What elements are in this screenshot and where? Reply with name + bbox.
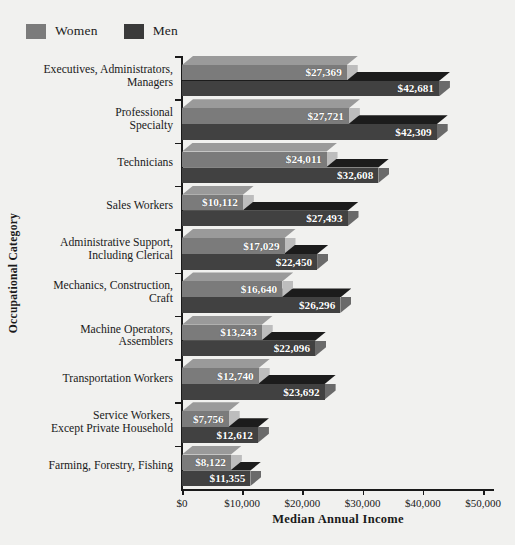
- x-axis-tick: [242, 489, 244, 495]
- bar-value-label: $7,756: [193, 413, 224, 425]
- bar-value-label: $8,122: [195, 456, 226, 468]
- bar-top-face: [182, 143, 338, 152]
- bar-women: $24,011: [182, 152, 327, 168]
- y-axis-tick-label: ProfessionalSpecialty: [115, 107, 173, 133]
- y-axis-tick-label: Executives, Administrators,Managers: [43, 64, 173, 90]
- bar-end-cap: [315, 341, 326, 357]
- bar-end-cap: [325, 384, 336, 400]
- y-axis-tick-label: Sales Workers: [106, 200, 173, 213]
- x-axis-tick-label: $50,000: [465, 497, 501, 509]
- bar-value-label: $17,029: [243, 240, 279, 252]
- bar-top-face: [182, 402, 240, 411]
- bar-chart: Women Men Occupational Category $0$10,00…: [0, 0, 515, 545]
- y-axis-tick: [175, 99, 182, 101]
- y-axis-tick: [175, 143, 182, 145]
- y-axis-title: Occupational Category: [2, 0, 24, 545]
- y-axis-tick-label-line: Assemblers: [80, 336, 173, 349]
- y-axis-tick: [175, 186, 182, 188]
- bar-men: $27,493: [182, 211, 348, 227]
- x-axis-tick-label: $30,000: [345, 497, 381, 509]
- bar-value-label: $12,740: [217, 370, 253, 382]
- bar-value-label: $22,450: [276, 256, 312, 268]
- bar-women: $13,243: [182, 325, 262, 341]
- y-axis-tick-label-line: Managers: [43, 77, 173, 90]
- x-axis-tick: [302, 489, 304, 495]
- bar-value-label: $22,096: [274, 342, 310, 354]
- bar-end-cap: [439, 81, 450, 97]
- y-axis-tick-label-line: Transportation Workers: [63, 373, 173, 386]
- x-axis-tick: [423, 489, 425, 495]
- bar-value-label: $27,721: [308, 110, 344, 122]
- x-axis-tick: [182, 489, 184, 495]
- bar-women: $27,721: [182, 108, 349, 124]
- bar-women: $7,756: [182, 411, 229, 427]
- x-axis-tick-label: $0: [177, 497, 188, 509]
- x-axis-tick-label: $40,000: [405, 497, 441, 509]
- bar-men: $22,096: [182, 341, 315, 357]
- y-axis-tick-label: Service Workers,Except Private Household: [51, 410, 173, 436]
- bar-top-face: [182, 229, 296, 238]
- bar-men: $32,608: [182, 168, 378, 184]
- chart-legend: Women Men: [26, 20, 204, 42]
- bar-top-face: [182, 359, 270, 368]
- bar-end-cap: [250, 471, 261, 487]
- x-axis-tick-label: $10,000: [224, 497, 260, 509]
- bar-women: $8,122: [182, 455, 231, 471]
- bar-women: $12,740: [182, 368, 259, 384]
- bar-top-face: [182, 316, 273, 325]
- bar-value-label: $42,681: [398, 82, 434, 94]
- y-axis-tick-label-line: Sales Workers: [106, 200, 173, 213]
- bar-end-cap: [258, 427, 269, 443]
- bar-value-label: $11,355: [210, 472, 246, 484]
- bar-men: $42,309: [182, 124, 437, 140]
- y-axis-tick: [175, 446, 182, 448]
- bar-value-label: $27,493: [306, 212, 342, 224]
- y-axis-tick-label: Farming, Forestry, Fishing: [48, 460, 173, 473]
- legend-item-women: Women: [26, 23, 98, 39]
- bar-women: $27,369: [182, 65, 347, 81]
- bar-value-label: $16,640: [241, 283, 277, 295]
- y-axis-tick-label: Machine Operators,Assemblers: [80, 324, 173, 350]
- legend-label-women: Women: [55, 23, 98, 39]
- bar-men: $23,692: [182, 384, 325, 400]
- bar-women: $17,029: [182, 238, 285, 254]
- y-axis-tick-label: Mechanics, Construction,Craft: [53, 280, 173, 306]
- x-axis-title: Median Annual Income: [182, 512, 494, 527]
- bar-value-label: $13,243: [220, 326, 256, 338]
- bar-value-label: $12,612: [217, 429, 253, 441]
- legend-swatch-men: [124, 24, 144, 39]
- bar-value-label: $32,608: [337, 169, 373, 181]
- bar-men: $22,450: [182, 254, 317, 270]
- bar-men: $26,296: [182, 297, 340, 313]
- y-axis-tick: [175, 229, 182, 231]
- bar-men: $11,355: [182, 471, 250, 487]
- x-axis-tick: [483, 489, 485, 495]
- x-axis-tick-label: $20,000: [285, 497, 321, 509]
- y-axis-tick-label: Administrative Support,Including Clerica…: [60, 237, 173, 263]
- y-axis-tick: [175, 316, 182, 318]
- bar-top-face: [182, 99, 360, 108]
- bar-men: $42,681: [182, 81, 439, 97]
- bar-women: $10,112: [182, 195, 243, 211]
- legend-label-men: Men: [153, 23, 178, 39]
- y-axis-tick-label-line: Craft: [53, 293, 173, 306]
- bar-end-cap: [437, 124, 448, 140]
- bar-end-cap: [348, 211, 359, 227]
- legend-item-men: Men: [124, 23, 178, 39]
- y-axis-tick-label-line: Farming, Forestry, Fishing: [48, 460, 173, 473]
- bar-value-label: $10,112: [202, 196, 238, 208]
- y-axis-tick-label-line: Technicians: [117, 157, 173, 170]
- bar-women: $16,640: [182, 281, 282, 297]
- y-axis-tick: [175, 402, 182, 404]
- bar-top-face: [182, 446, 242, 455]
- bar-value-label: $27,369: [305, 66, 341, 78]
- bar-end-cap: [317, 254, 328, 270]
- x-axis-tick: [363, 489, 365, 495]
- bar-end-cap: [340, 297, 351, 313]
- y-axis-tick-label-line: Including Clerical: [60, 250, 173, 263]
- y-axis-title-text: Occupational Category: [7, 212, 19, 332]
- bar-top-face: [182, 56, 358, 65]
- bar-value-label: $42,309: [395, 126, 431, 138]
- bar-value-label: $26,296: [299, 299, 335, 311]
- bar-value-label: $24,011: [286, 153, 322, 165]
